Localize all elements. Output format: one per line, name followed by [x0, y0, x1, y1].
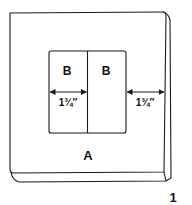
panel-a-label: A: [83, 148, 93, 163]
dimension-right: 1¾″: [127, 92, 164, 108]
piece-b-left-label: B: [63, 64, 72, 78]
dimension-left-label: 1¾″: [59, 97, 78, 108]
dimension-right-label: 1¾″: [136, 97, 155, 108]
diagram-canvas: B B 1¾″ 1¾″ A 1: [0, 0, 192, 205]
panel-bottom-edge: [11, 172, 166, 182]
piece-b-right-label: B: [102, 64, 111, 78]
figure-number: 1: [169, 190, 176, 205]
dimension-left: 1¾″: [50, 92, 87, 108]
